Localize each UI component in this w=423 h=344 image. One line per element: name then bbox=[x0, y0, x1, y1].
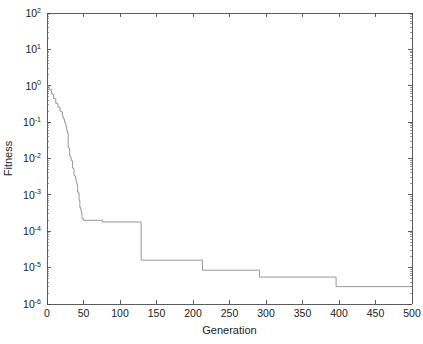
x-tick-label: 50 bbox=[78, 307, 90, 319]
x-tick-label: 150 bbox=[148, 307, 166, 319]
x-tick-label: 0 bbox=[44, 307, 50, 319]
x-tick-label: 400 bbox=[330, 307, 348, 319]
fitness-convergence-chart: 05010015020025030035040045050010-610-510… bbox=[0, 0, 423, 344]
y-axis-title: Fitness bbox=[2, 140, 14, 176]
x-tick-label: 300 bbox=[257, 307, 275, 319]
x-tick-label: 250 bbox=[221, 307, 239, 319]
plot-background bbox=[0, 0, 423, 344]
x-tick-label: 500 bbox=[403, 307, 421, 319]
x-tick-label: 350 bbox=[294, 307, 312, 319]
figure-container: 05010015020025030035040045050010-610-510… bbox=[0, 0, 423, 344]
x-tick-label: 200 bbox=[184, 307, 202, 319]
x-tick-label: 450 bbox=[367, 307, 385, 319]
x-tick-label: 100 bbox=[111, 307, 129, 319]
x-axis-title: Generation bbox=[202, 324, 256, 336]
